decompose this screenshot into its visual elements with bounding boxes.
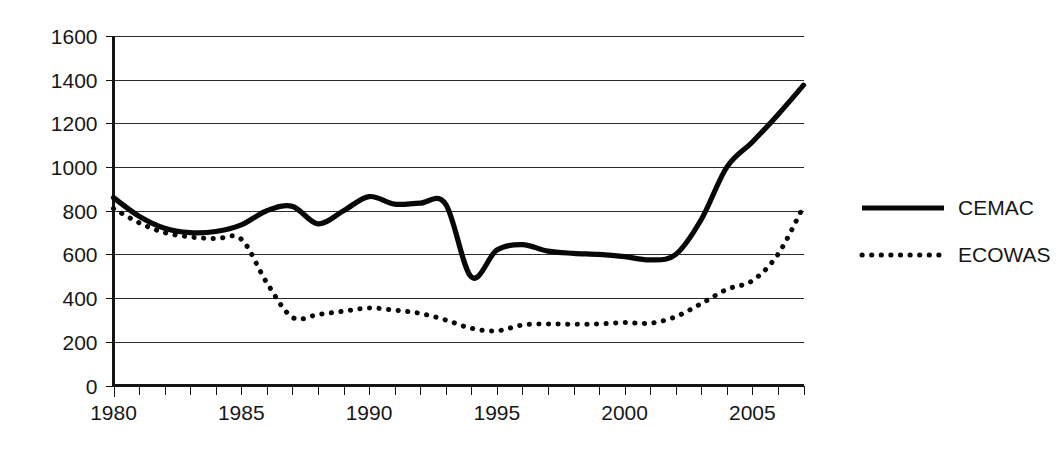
line-chart: 02004006008001000120014001600 1980198519…	[0, 0, 1064, 460]
x-tick-label: 1985	[218, 401, 265, 424]
legend-label-ecowas: ECOWAS	[958, 243, 1051, 266]
y-tick-label: 600	[62, 243, 97, 266]
y-tick-label: 1600	[51, 25, 98, 48]
y-tick-label: 400	[62, 287, 97, 310]
y-tick-label: 0	[86, 375, 98, 398]
x-tick-label: 1980	[90, 401, 137, 424]
y-tick-label: 1000	[51, 156, 98, 179]
y-tick-label: 1200	[51, 112, 98, 135]
x-tick-label: 2000	[601, 401, 648, 424]
x-tick-label: 1990	[346, 401, 393, 424]
legend-label-cemac: CEMAC	[958, 196, 1034, 219]
y-tick-label: 200	[62, 331, 97, 354]
chart-background	[0, 0, 1064, 460]
y-tick-label: 1400	[51, 69, 98, 92]
y-tick-label: 800	[62, 200, 97, 223]
x-tick-label: 1995	[473, 401, 520, 424]
x-tick-label: 2005	[729, 401, 776, 424]
chart-container: 02004006008001000120014001600 1980198519…	[0, 0, 1064, 460]
